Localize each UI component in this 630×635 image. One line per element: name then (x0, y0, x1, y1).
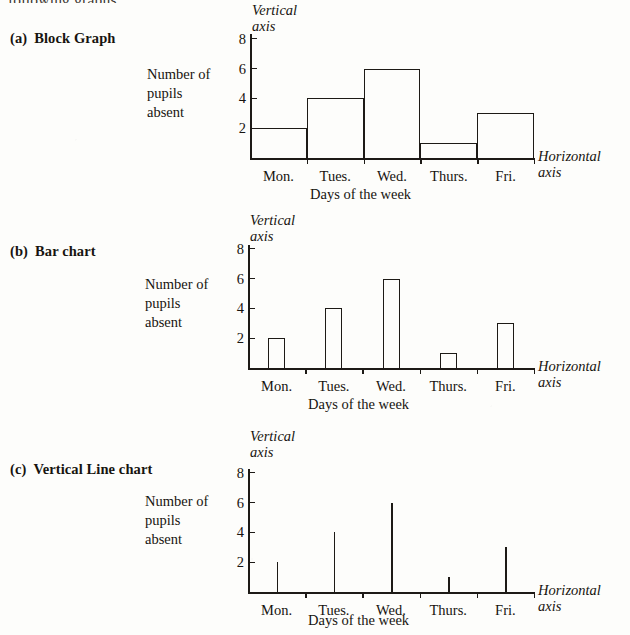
vertical-axis-note-line1-c: Vertical (250, 428, 295, 444)
vertical-line-c-3 (448, 577, 450, 593)
y-tick-label-c-6: 6 (224, 496, 244, 511)
y-tick-label-c-2: 2 (224, 555, 244, 570)
y-axis-description-c: Number of pupils absent (145, 492, 208, 549)
horizontal-axis-note-line2-c: axis (538, 598, 601, 614)
vertical-line-c-2 (391, 503, 393, 594)
x-tick-c-3 (420, 592, 421, 598)
vertical-line-c-1 (334, 532, 336, 593)
y-tick-label-c-8: 8 (224, 466, 244, 481)
y-tick-c-2 (249, 562, 255, 563)
horizontal-axis-note-line1-c: Horizontal (538, 582, 601, 598)
y-tick-c-6 (249, 502, 255, 503)
y-desc-line2-c: pupils (145, 511, 208, 530)
x-tick-c-4 (477, 592, 478, 598)
y-tick-label-c-4: 4 (224, 525, 244, 540)
y-desc-line3-c: absent (145, 530, 208, 549)
vertical-axis-note-line2-c: axis (250, 444, 295, 460)
vertical-line-c-0 (277, 562, 279, 593)
vertical-line-c-4 (505, 547, 507, 593)
x-tick-c-1 (305, 592, 306, 598)
x-category-label-c-4: Fri. (471, 603, 539, 618)
vertical-axis-note-c: Vertical axis (250, 428, 295, 460)
y-desc-line1-c: Number of (145, 492, 208, 511)
textbook-figure-page: following graphs: (a)Block Graph Vertica… (0, 0, 630, 635)
y-tick-c-8 (249, 472, 255, 473)
x-tick-c-5 (534, 592, 535, 598)
vertical-line-chart: Vertical axis Number of pupils absent Ho… (0, 0, 630, 635)
y-tick-c-4 (249, 532, 255, 533)
x-tick-c-2 (362, 592, 363, 598)
horizontal-axis-note-c: Horizontal axis (538, 582, 601, 614)
